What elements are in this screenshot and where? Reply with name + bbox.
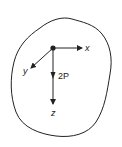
diagram-canvas: x y z 2P	[0, 0, 122, 147]
x-axis-label: x	[84, 43, 90, 53]
y-axis-label: y	[22, 66, 28, 76]
y-axis-arrow	[31, 48, 53, 68]
force-arrowhead-icon	[51, 72, 56, 79]
force-label: 2P	[58, 71, 69, 81]
z-axis-label: z	[50, 108, 56, 118]
origin-dot	[50, 45, 55, 50]
